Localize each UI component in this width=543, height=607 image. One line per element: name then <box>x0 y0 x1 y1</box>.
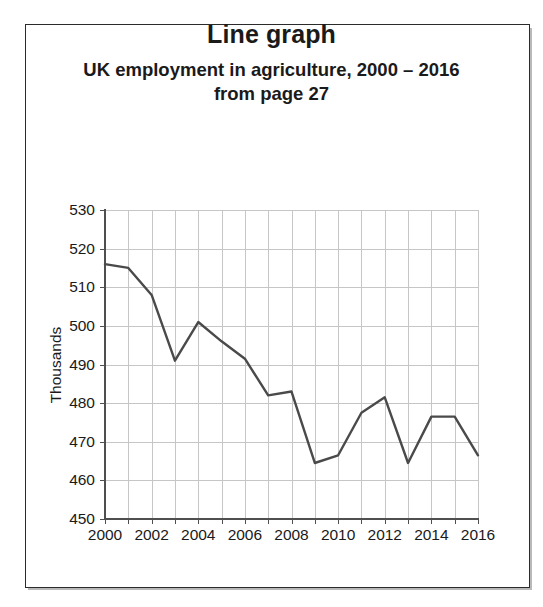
x-axis-tick <box>385 519 386 524</box>
y-axis-tick-label: 470 <box>69 433 95 451</box>
chart-page: Line graph UK employment in agriculture,… <box>0 0 543 607</box>
x-axis-tick <box>245 519 246 524</box>
y-axis-title-label: Thousands <box>47 326 65 403</box>
x-axis-tick-label: 2014 <box>414 526 448 544</box>
y-axis-tick-label: 520 <box>69 240 95 258</box>
gridline-vertical <box>478 210 479 519</box>
y-axis-tick-label: 490 <box>69 356 95 374</box>
x-axis-tick <box>175 519 176 524</box>
x-axis-tick <box>268 519 269 524</box>
x-axis-tick <box>222 519 223 524</box>
x-axis-tick-label: 2004 <box>181 526 215 544</box>
x-axis-tick <box>361 519 362 524</box>
series-line-chart <box>105 210 478 519</box>
plot-area: 5305205105004904804704604502000200220042… <box>105 210 478 519</box>
x-axis-tick <box>292 519 293 524</box>
page-title: Line graph <box>0 20 543 49</box>
series-polyline <box>105 264 478 463</box>
x-axis-tick-label: 2016 <box>461 526 495 544</box>
x-axis-tick <box>198 519 199 524</box>
y-axis-tick-label: 460 <box>69 471 95 489</box>
x-axis-tick <box>338 519 339 524</box>
y-axis-tick-label: 510 <box>69 278 95 296</box>
x-axis-tick-label: 2010 <box>321 526 355 544</box>
y-axis-tick-label: 500 <box>69 317 95 335</box>
x-axis-tick-label: 2006 <box>228 526 262 544</box>
x-axis-tick <box>152 519 153 524</box>
y-axis-tick-label: 480 <box>69 394 95 412</box>
x-axis-tick <box>455 519 456 524</box>
subtitle-line-2: from page 27 <box>0 82 543 106</box>
y-axis-title: Thousands <box>45 210 67 519</box>
x-axis-tick-label: 2012 <box>368 526 402 544</box>
y-axis-tick-label: 530 <box>69 201 95 219</box>
x-axis-tick <box>128 519 129 524</box>
x-axis-tick-label: 2002 <box>134 526 168 544</box>
x-axis-tick <box>408 519 409 524</box>
x-axis-tick <box>105 519 106 524</box>
x-axis-tick <box>478 519 479 524</box>
x-axis-tick <box>431 519 432 524</box>
x-axis-tick-label: 2008 <box>274 526 308 544</box>
subtitle-line-1: UK employment in agriculture, 2000 – 201… <box>83 59 459 80</box>
x-axis-tick <box>315 519 316 524</box>
page-subtitle: UK employment in agriculture, 2000 – 201… <box>0 58 543 105</box>
x-axis-tick-label: 2000 <box>88 526 122 544</box>
